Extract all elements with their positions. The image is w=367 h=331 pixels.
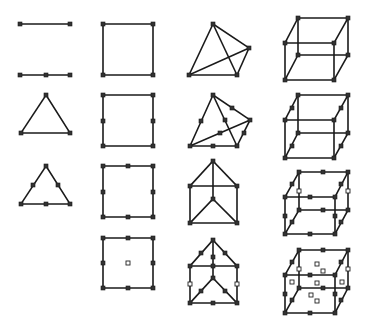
node-marker [297, 286, 301, 290]
element-triangle-6 [19, 164, 72, 206]
node-marker [18, 73, 22, 77]
node-marker [211, 144, 215, 148]
node-marker [151, 22, 155, 26]
interior-node-marker [315, 299, 319, 303]
node-marker [333, 195, 337, 199]
node-marker [223, 118, 227, 122]
node-marker [346, 170, 350, 174]
node-marker [223, 289, 227, 293]
edge [334, 18, 348, 43]
element-tetra-4 [187, 22, 251, 77]
interior-node-marker [290, 280, 294, 284]
node-marker [151, 73, 155, 77]
node-marker [283, 273, 287, 277]
node-marker [126, 215, 130, 219]
node-marker [101, 236, 105, 240]
element-triangle-3 [19, 93, 72, 135]
node-marker [242, 131, 246, 135]
node-marker [188, 264, 192, 268]
node-marker [332, 78, 336, 82]
node-marker [247, 46, 251, 50]
element-hexa-27 [283, 248, 350, 315]
interior-node-marker [346, 267, 350, 271]
node-marker [283, 156, 287, 160]
node-marker [211, 93, 215, 97]
node-marker [296, 131, 300, 135]
node-marker [31, 183, 35, 187]
node-marker [126, 286, 130, 290]
node-marker [68, 22, 72, 26]
node-marker [283, 118, 287, 122]
node-marker [308, 195, 312, 199]
element-quad-8 [101, 164, 155, 219]
node-marker [223, 251, 227, 255]
edge [213, 199, 237, 223]
interior-node-marker [315, 262, 319, 266]
element-prism-15 [188, 238, 239, 305]
element-hexa-8 [283, 16, 350, 82]
node-marker [321, 208, 325, 212]
node-marker [188, 144, 192, 148]
node-marker [321, 286, 325, 290]
node-marker [339, 106, 343, 110]
node-marker [68, 73, 72, 77]
edge [190, 161, 213, 186]
node-marker [283, 41, 287, 45]
node-marker [333, 273, 337, 277]
node-marker [235, 264, 239, 268]
node-marker [346, 248, 350, 252]
node-marker [346, 208, 350, 212]
interior-node-marker [188, 282, 192, 286]
interior-node-marker [346, 189, 350, 193]
node-marker [346, 16, 350, 20]
edge [46, 95, 70, 133]
node-marker [248, 118, 252, 122]
edge [189, 24, 213, 75]
node-marker [297, 170, 301, 174]
node-marker [101, 164, 105, 168]
node-marker [101, 215, 105, 219]
node-marker [339, 182, 343, 186]
node-marker [332, 41, 336, 45]
node-marker [101, 22, 105, 26]
node-marker [296, 16, 300, 20]
edge [21, 95, 46, 133]
node-marker [297, 248, 301, 252]
node-marker [151, 236, 155, 240]
node-marker [101, 261, 105, 265]
node-marker [332, 118, 336, 122]
node-marker [44, 202, 48, 206]
node-marker [321, 248, 325, 252]
node-marker [333, 311, 337, 315]
node-marker [218, 131, 222, 135]
interior-node-marker [340, 280, 344, 284]
node-marker [188, 221, 192, 225]
node-marker [151, 119, 155, 123]
node-marker [101, 119, 105, 123]
node-marker [151, 190, 155, 194]
element-line-3 [18, 73, 72, 77]
node-marker [346, 53, 350, 57]
node-marker [235, 144, 239, 148]
node-marker [332, 156, 336, 160]
element-line-2 [18, 22, 72, 26]
edge [285, 18, 298, 43]
interior-node-marker [321, 269, 325, 273]
element-quad-4 [101, 22, 155, 77]
node-marker [296, 93, 300, 97]
interior-node-marker [309, 293, 313, 297]
node-marker [235, 184, 239, 188]
node-marker [211, 264, 215, 268]
node-marker [151, 93, 155, 97]
node-marker [211, 238, 215, 242]
element-tetra-10 [188, 93, 252, 148]
node-marker [290, 260, 294, 264]
node-marker [44, 93, 48, 97]
node-marker [346, 93, 350, 97]
node-marker [211, 197, 215, 201]
node-marker [321, 170, 325, 174]
interior-node-marker [235, 282, 239, 286]
node-marker [19, 131, 23, 135]
node-marker [187, 73, 191, 77]
node-marker [151, 164, 155, 168]
